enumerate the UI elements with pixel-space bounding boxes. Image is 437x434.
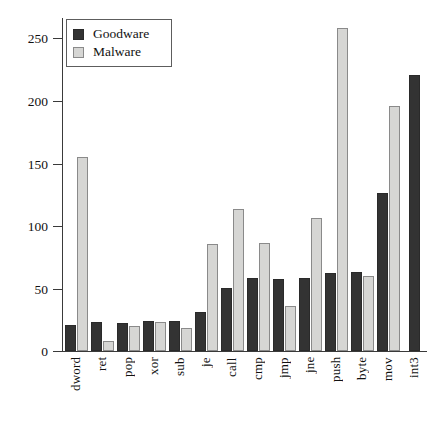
bar-chart: 250 200 150 100 50 0 dwordretpopxorsubje… <box>0 0 437 434</box>
bar-malware-sub <box>181 328 192 351</box>
legend-entry-goodware: Goodware <box>73 25 165 43</box>
bar-goodware-pop <box>117 323 128 351</box>
bar-goodware-xor <box>143 321 154 351</box>
y-tick-label-150: 150 <box>6 158 48 172</box>
y-tick-mark-100 <box>53 226 62 227</box>
x-tick-label-je: je <box>199 357 213 427</box>
bar-malware-call <box>233 209 244 351</box>
bar-group <box>375 18 401 351</box>
y-tick-label-250: 250 <box>6 32 48 46</box>
x-tick-label-cmp: cmp <box>251 357 265 427</box>
bar-group <box>141 18 167 351</box>
bar-malware-je <box>207 244 218 351</box>
bar-goodware-mov <box>377 193 388 351</box>
bar-group <box>115 18 141 351</box>
y-tick-label-200: 200 <box>6 95 48 109</box>
bar-group <box>167 18 193 351</box>
y-tick-label-50: 50 <box>6 283 48 297</box>
bar-group <box>245 18 271 351</box>
bar-goodware-dword <box>65 325 76 351</box>
x-tick-label-pop: pop <box>121 357 135 427</box>
x-tick-label-push: push <box>329 357 343 427</box>
x-axis-line <box>62 351 427 352</box>
bar-malware-cmp <box>259 243 270 351</box>
bar-group <box>193 18 219 351</box>
x-tick-label-sub: sub <box>173 357 187 427</box>
bar-malware-push <box>337 28 348 351</box>
x-tick-label-jmp: jmp <box>277 357 291 427</box>
bar-goodware-jne <box>299 278 310 351</box>
bar-malware-jmp <box>285 306 296 351</box>
bar-goodware-int3 <box>409 75 420 351</box>
y-tick-mark-50 <box>53 289 62 290</box>
y-tick-label-0: 0 <box>6 345 48 359</box>
legend-label-goodware: Goodware <box>93 27 149 41</box>
plot-area <box>63 18 427 351</box>
x-tick-label-ret: ret <box>95 357 109 427</box>
bar-goodware-push <box>325 273 336 351</box>
x-tick-label-jne: jne <box>303 357 317 427</box>
bar-goodware-cmp <box>247 278 258 351</box>
bar-malware-xor <box>155 322 166 351</box>
bar-goodware-ret <box>91 322 102 351</box>
bar-group <box>89 18 115 351</box>
x-tick-label-dword: dword <box>69 357 83 427</box>
x-tick-label-int3: int3 <box>407 357 421 427</box>
y-tick-mark-250 <box>53 38 62 39</box>
bar-malware-byte <box>363 276 374 351</box>
y-tick-mark-200 <box>53 101 62 102</box>
legend-label-malware: Malware <box>93 45 141 59</box>
bar-malware-mov <box>389 106 400 351</box>
malware-swatch-icon <box>73 47 84 58</box>
bar-group <box>63 18 89 351</box>
goodware-swatch-icon <box>73 29 84 40</box>
x-tick-label-byte: byte <box>355 357 369 427</box>
bar-group <box>271 18 297 351</box>
bar-group <box>323 18 349 351</box>
bar-group <box>401 18 427 351</box>
bar-goodware-sub <box>169 321 180 351</box>
chart-legend: Goodware Malware <box>66 19 172 67</box>
x-tick-label-xor: xor <box>147 357 161 427</box>
bar-goodware-je <box>195 312 206 351</box>
x-tick-label-mov: mov <box>381 357 395 427</box>
bar-goodware-call <box>221 288 232 351</box>
y-tick-mark-150 <box>53 164 62 165</box>
bar-malware-ret <box>103 341 114 351</box>
bar-group <box>349 18 375 351</box>
bar-malware-jne <box>311 218 322 351</box>
bar-group <box>297 18 323 351</box>
bar-group <box>219 18 245 351</box>
y-tick-mark-0 <box>53 351 62 352</box>
legend-entry-malware: Malware <box>73 43 165 61</box>
y-tick-label-100: 100 <box>6 220 48 234</box>
x-tick-label-call: call <box>225 357 239 427</box>
bar-goodware-jmp <box>273 279 284 351</box>
bar-goodware-byte <box>351 272 362 351</box>
bar-malware-pop <box>129 326 140 351</box>
bar-malware-dword <box>77 157 88 351</box>
